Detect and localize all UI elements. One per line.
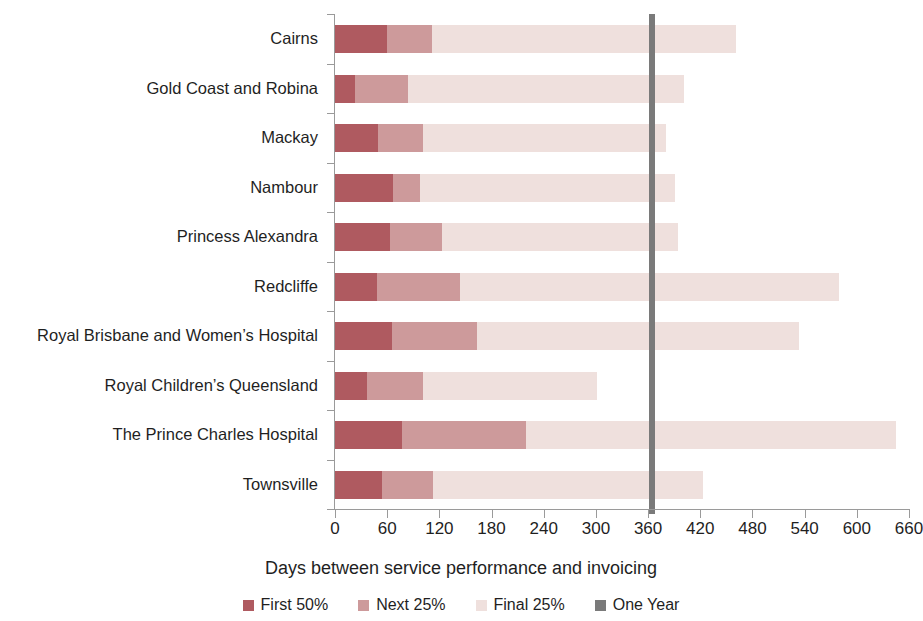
x-axis-tick-label: 660 <box>895 519 923 539</box>
legend-item[interactable]: Final 25% <box>476 596 565 614</box>
y-axis-label: Gold Coast and Robina <box>146 64 318 114</box>
legend-swatch-icon <box>358 600 369 611</box>
bar-segment <box>477 322 800 350</box>
bar-segment <box>420 174 675 202</box>
bar-segment <box>335 75 355 103</box>
bar-segment <box>335 421 402 449</box>
bar-segment <box>402 421 526 449</box>
bar-row <box>335 262 909 312</box>
bar-segment <box>367 372 423 400</box>
bar-rows <box>335 14 909 509</box>
x-axis-tick-label: 360 <box>634 519 662 539</box>
plot-area <box>335 14 909 509</box>
x-axis-tick-label: 480 <box>738 519 766 539</box>
bar-row <box>335 14 909 64</box>
x-axis-tick-label: 240 <box>530 519 558 539</box>
legend-swatch-icon <box>595 600 606 611</box>
x-axis-title: Days between service performance and inv… <box>0 558 922 579</box>
x-axis-tick <box>857 509 858 518</box>
y-axis-label: Royal Brisbane and Women’s Hospital <box>37 311 318 361</box>
bar-row <box>335 361 909 411</box>
bar-segment <box>335 372 367 400</box>
y-axis-label: Townsville <box>243 460 318 510</box>
legend-label: One Year <box>613 596 680 614</box>
y-axis-label: Cairns <box>270 14 318 64</box>
y-axis-label: Royal Children’s Queensland <box>105 361 318 411</box>
bar-row <box>335 212 909 262</box>
bar-segment <box>432 25 736 53</box>
bar-row <box>335 460 909 510</box>
x-axis-tick-label: 60 <box>378 519 397 539</box>
bar-row <box>335 311 909 361</box>
bar-segment <box>392 322 477 350</box>
bar-segment <box>423 372 597 400</box>
bar-segment <box>423 124 667 152</box>
y-axis-line <box>334 14 335 509</box>
y-axis-label: Princess Alexandra <box>177 212 318 262</box>
x-axis-tick-label: 0 <box>330 519 339 539</box>
bar-segment <box>390 223 442 251</box>
x-axis-tick <box>335 509 336 518</box>
x-axis-tick <box>596 509 597 518</box>
x-axis-tick-label: 120 <box>425 519 453 539</box>
bar-segment <box>433 471 703 499</box>
bar-segment <box>377 273 460 301</box>
one-year-marker-line <box>649 14 655 514</box>
legend-label: First 50% <box>261 596 329 614</box>
y-axis-label: Mackay <box>261 113 318 163</box>
legend-item[interactable]: First 50% <box>243 596 329 614</box>
x-axis-tick-label: 180 <box>477 519 505 539</box>
legend-label: Final 25% <box>494 596 565 614</box>
x-axis-tick <box>752 509 753 518</box>
chart-legend: First 50%Next 25%Final 25%One Year <box>0 596 922 614</box>
bar-segment <box>355 75 408 103</box>
bar-segment <box>335 25 387 53</box>
y-axis-label: Redcliffe <box>254 262 318 312</box>
bar-segment <box>335 322 392 350</box>
y-axis-tick <box>327 509 335 510</box>
y-axis-labels: Cairns Gold Coast and Robina Mackay Namb… <box>0 14 326 509</box>
y-axis-label: Nambour <box>250 163 318 213</box>
bar-row <box>335 410 909 460</box>
legend-item[interactable]: One Year <box>595 596 680 614</box>
x-axis-tick <box>387 509 388 518</box>
legend-item[interactable]: Next 25% <box>358 596 445 614</box>
bar-segment <box>335 174 393 202</box>
legend-swatch-icon <box>243 600 254 611</box>
bar-segment <box>382 471 433 499</box>
x-axis-tick-label: 600 <box>843 519 871 539</box>
x-axis-tick <box>492 509 493 518</box>
bar-segment <box>408 75 684 103</box>
x-axis-tick <box>439 509 440 518</box>
bar-row <box>335 64 909 114</box>
x-axis-tick <box>648 509 649 518</box>
y-axis-label: The Prince Charles Hospital <box>113 410 318 460</box>
x-axis-tick-label: 300 <box>582 519 610 539</box>
x-axis-tick <box>544 509 545 518</box>
bar-segment <box>442 223 678 251</box>
bar-row <box>335 113 909 163</box>
bar-segment <box>335 273 377 301</box>
bar-segment <box>387 25 432 53</box>
x-axis-tick-label: 420 <box>686 519 714 539</box>
bar-segment <box>335 124 378 152</box>
bar-segment <box>393 174 420 202</box>
x-axis-tick <box>909 509 910 518</box>
legend-swatch-icon <box>476 600 487 611</box>
legend-label: Next 25% <box>376 596 445 614</box>
bar-segment <box>378 124 423 152</box>
x-axis-tick <box>805 509 806 518</box>
x-axis-tick <box>700 509 701 518</box>
bar-row <box>335 163 909 213</box>
x-axis-line <box>335 509 909 510</box>
bar-segment <box>335 223 390 251</box>
bar-segment <box>335 471 382 499</box>
bar-segment <box>526 421 896 449</box>
x-axis-tick-label: 540 <box>790 519 818 539</box>
